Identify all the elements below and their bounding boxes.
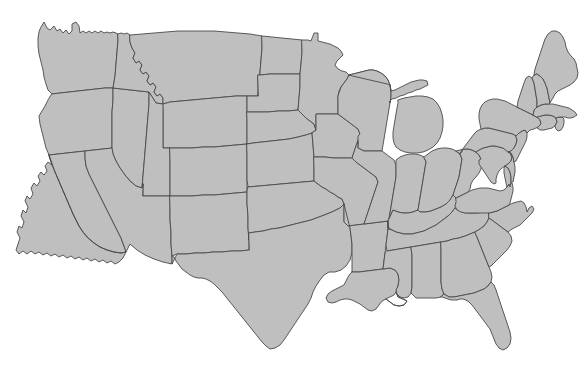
us-map-canvas: Washington Oregon California Nevada Idah…	[0, 0, 585, 374]
state-wa[interactable]: Washington	[38, 22, 118, 94]
state-wy[interactable]: Wyoming	[163, 96, 247, 148]
us-map-figure: Washington Oregon California Nevada Idah…	[0, 0, 585, 374]
state-co[interactable]: Colorado	[170, 144, 247, 196]
state-nm[interactable]: New Mexico	[170, 192, 249, 256]
state-al[interactable]: Alabama	[411, 242, 444, 298]
state-or[interactable]: Oregon	[39, 88, 113, 155]
